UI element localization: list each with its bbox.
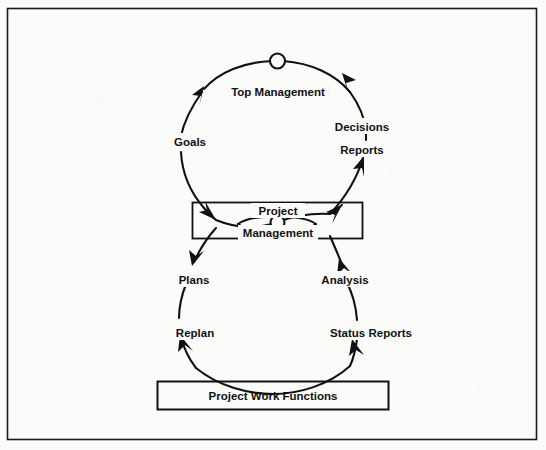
label-management: Management	[243, 227, 313, 239]
label-project: Project	[259, 205, 298, 217]
label-top-management: Top Management	[231, 86, 325, 98]
arrowhead-plans-down	[189, 250, 204, 266]
upper-loop-left-arc-mid	[181, 92, 202, 136]
label-reports: Reports	[340, 144, 383, 156]
label-status-reports: Status Reports	[330, 327, 412, 339]
upper-loop-left-arc-lower	[181, 152, 204, 208]
label-goals: Goals	[174, 136, 206, 148]
top-management-node-circle	[270, 54, 285, 69]
diagram-canvas: Top Management Goals Decisions Reports P…	[0, 0, 546, 450]
arrowhead-top-right-up	[342, 73, 356, 92]
lower-loop-right-arc-top	[330, 236, 341, 262]
label-analysis: Analysis	[321, 274, 368, 286]
lower-loop-left-arc-mid	[179, 284, 186, 318]
arrowhead-decisions-up	[353, 156, 364, 177]
figure-root: Top Management Goals Decisions Reports P…	[0, 0, 546, 450]
label-project-work-functions: Project Work Functions	[209, 390, 338, 402]
label-plans: Plans	[179, 274, 210, 286]
label-replan: Replan	[176, 327, 214, 339]
label-decisions: Decisions	[335, 121, 389, 133]
